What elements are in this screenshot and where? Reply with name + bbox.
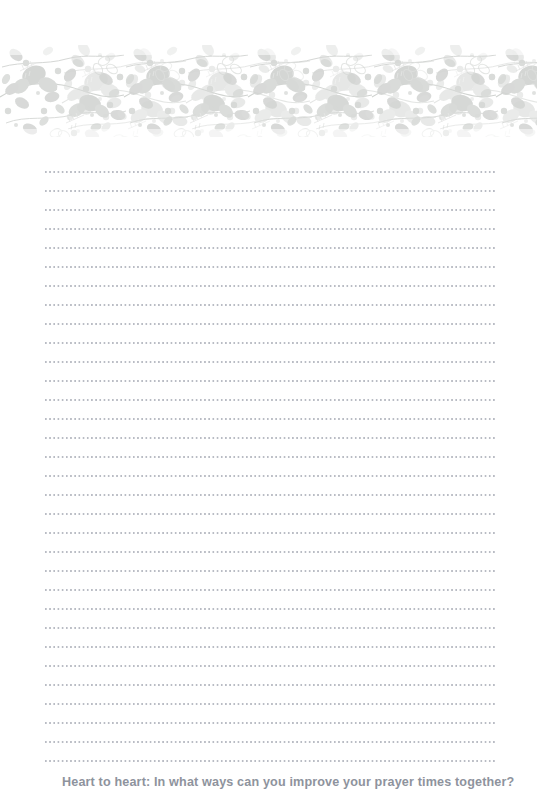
rule-line[interactable] <box>45 168 495 187</box>
rule-line[interactable] <box>45 719 495 738</box>
rule-line[interactable] <box>45 681 495 700</box>
rule-line[interactable] <box>45 396 495 415</box>
rule-line[interactable] <box>45 624 495 643</box>
rule-line[interactable] <box>45 529 495 548</box>
rule-line[interactable] <box>45 491 495 510</box>
rule-line[interactable] <box>45 567 495 586</box>
rule-line[interactable] <box>45 339 495 358</box>
rule-line[interactable] <box>45 510 495 529</box>
rule-line[interactable] <box>45 320 495 339</box>
rule-line[interactable] <box>45 453 495 472</box>
rule-line[interactable] <box>45 358 495 377</box>
rule-line[interactable] <box>45 415 495 434</box>
floral-vine-border-icon <box>0 45 537 137</box>
rule-line[interactable] <box>45 244 495 263</box>
journal-page: Heart to heart: In what ways can you imp… <box>0 0 537 802</box>
rule-line[interactable] <box>45 586 495 605</box>
rule-line[interactable] <box>45 605 495 624</box>
rule-line[interactable] <box>45 700 495 719</box>
rule-line[interactable] <box>45 434 495 453</box>
rule-line[interactable] <box>45 472 495 491</box>
rule-line[interactable] <box>45 301 495 320</box>
rule-line[interactable] <box>45 187 495 206</box>
rule-line[interactable] <box>45 263 495 282</box>
rule-line[interactable] <box>45 282 495 301</box>
rule-line[interactable] <box>45 548 495 567</box>
rule-line[interactable] <box>45 643 495 662</box>
rule-line[interactable] <box>45 662 495 681</box>
rule-line[interactable] <box>45 738 495 757</box>
journal-prompt: Heart to heart: In what ways can you imp… <box>62 775 502 789</box>
rule-line[interactable] <box>45 757 495 776</box>
rule-line[interactable] <box>45 206 495 225</box>
rule-line[interactable] <box>45 377 495 396</box>
dotted-rule-lines[interactable] <box>45 168 495 774</box>
rule-line[interactable] <box>45 225 495 244</box>
